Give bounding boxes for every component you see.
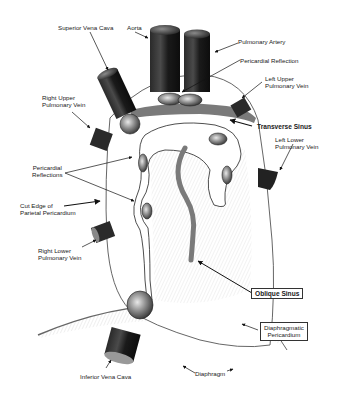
label-pulmonary-artery: Pulmonary Artery <box>238 38 285 45</box>
label-line: Pulmonary Vein <box>265 82 308 89</box>
label-line: Pulmonary Vein <box>275 143 318 150</box>
label-left-upper-pulmonary-vein: Left Upper Pulmonary Vein <box>265 75 308 90</box>
superior-vena-cava <box>96 65 137 119</box>
label-line: Right Upper <box>42 94 85 101</box>
label-line: Diaphragmatic <box>264 324 304 331</box>
label-line: Left Upper <box>265 75 308 82</box>
label-right-lower-pulmonary-vein: Right Lower Pulmonary Vein <box>38 247 81 262</box>
label-diaphragmatic-pericardium: Diaphragmatic Pericardium <box>260 322 308 341</box>
label-line: Cut Edge of <box>20 202 76 209</box>
aorta <box>150 25 180 92</box>
label-line: Pericardial <box>32 164 63 171</box>
label-left-lower-pulmonary-vein: Left Lower Pulmonary Vein <box>275 136 318 151</box>
label-cut-edge-parietal-pericardium: Cut Edge of Parietal Pericardium <box>20 202 76 217</box>
label-oblique-sinus: Oblique Sinus <box>251 288 303 299</box>
label-line: Pulmonary Vein <box>42 101 85 108</box>
inferior-vena-cava <box>103 327 141 367</box>
label-aorta: Aorta <box>127 24 142 31</box>
label-line: Right Lower <box>38 247 81 254</box>
label-right-upper-pulmonary-vein: Right Upper Pulmonary Vein <box>42 94 85 109</box>
label-diaphragm: Diaphragm <box>195 370 225 377</box>
label-superior-vena-cava: Superior Vena Cava <box>58 24 113 31</box>
label-line: Pulmonary Vein <box>38 254 81 261</box>
left-lower-pulmonary-vein <box>258 168 278 190</box>
label-line: Pericardium <box>264 331 304 338</box>
label-line: Parietal Pericardium <box>20 209 76 216</box>
label-inferior-vena-cava: Inferior Vena Cava <box>80 373 131 380</box>
label-pericardial-reflections: Pericardial Reflections <box>32 164 63 179</box>
label-line: Reflections <box>32 171 63 178</box>
label-line: Left Lower <box>275 136 318 143</box>
label-pericardial-reflection: Pericardial Reflection <box>240 57 298 64</box>
pulmonary-artery <box>184 30 210 93</box>
label-transverse-sinus: Transverse Sinus <box>257 123 312 130</box>
